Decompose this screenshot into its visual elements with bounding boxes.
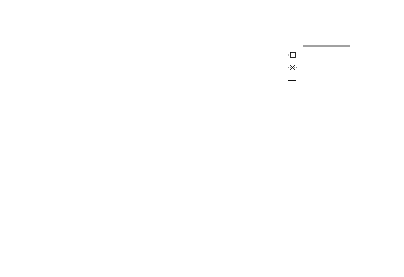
legend: [288, 46, 350, 81]
chart: [0, 0, 404, 277]
x-marker-icon: [288, 65, 297, 70]
square-marker-icon: [288, 53, 296, 58]
